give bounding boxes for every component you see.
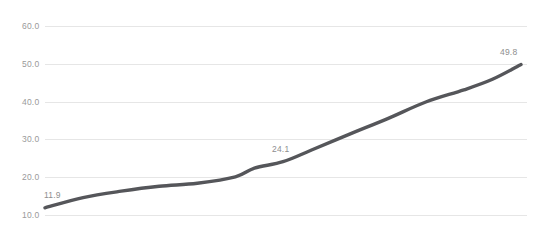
data-point-label: 24.1 xyxy=(272,144,289,154)
line-chart: 10.020.030.040.050.060.0 11.924.149.8 xyxy=(0,0,542,244)
series-group xyxy=(45,65,521,208)
y-axis-tick-label: 40.0 xyxy=(22,97,39,107)
chart-plot-area xyxy=(0,0,542,244)
y-axis-tick-label: 60.0 xyxy=(22,21,39,31)
data-point-label: 11.9 xyxy=(44,190,61,200)
data-point-label: 49.8 xyxy=(500,47,517,57)
y-axis-tick-label: 20.0 xyxy=(22,172,39,182)
y-axis-tick-label: 50.0 xyxy=(22,59,39,69)
series-line xyxy=(45,65,521,208)
y-axis-tick-label: 10.0 xyxy=(22,210,39,220)
y-axis-tick-label: 30.0 xyxy=(22,134,39,144)
gridlines xyxy=(45,27,527,216)
